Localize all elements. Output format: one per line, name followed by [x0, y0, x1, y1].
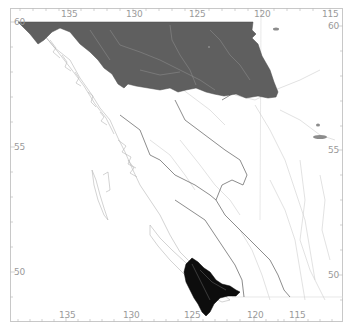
right-label-55: 55 [328, 146, 339, 155]
bottom-label-120: 120 [247, 311, 264, 320]
right-label-50: 50 [328, 271, 339, 280]
right-ticks [338, 26, 343, 300]
bottom-label-125: 125 [184, 311, 201, 320]
top-label-130: 130 [126, 10, 143, 19]
left-ticks [10, 22, 15, 297]
bottom-label-135: 135 [59, 311, 76, 320]
left-label-60: 60 [14, 18, 25, 27]
top-label-120: 120 [254, 10, 271, 19]
map-canvas[interactable] [0, 0, 350, 330]
bottom-label-115: 115 [289, 311, 306, 320]
left-label-55: 55 [14, 143, 25, 152]
left-label-50: 50 [14, 268, 25, 277]
top-label-125: 125 [189, 10, 206, 19]
right-label-60: 60 [328, 22, 339, 31]
top-label-115: 115 [322, 10, 339, 19]
southern-region[interactable] [184, 258, 240, 316]
top-label-135: 135 [61, 10, 78, 19]
bottom-label-130: 130 [123, 311, 140, 320]
northern-region[interactable] [18, 22, 278, 98]
